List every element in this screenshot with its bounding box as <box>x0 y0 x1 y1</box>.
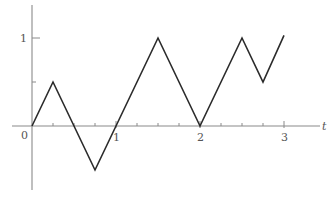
x-tick-label: 2 <box>197 131 204 144</box>
x-tick-label: 3 <box>281 131 288 144</box>
chart-plot-area: 01231t <box>0 0 334 202</box>
data-line <box>32 35 284 170</box>
axes <box>12 5 320 190</box>
x-axis-label: t <box>322 120 327 133</box>
x-tick-label: 1 <box>113 131 120 144</box>
tick-marks <box>32 38 284 128</box>
tick-labels: 01231t <box>20 32 327 144</box>
origin-label: 0 <box>21 129 28 142</box>
y-tick-label: 1 <box>20 32 27 45</box>
